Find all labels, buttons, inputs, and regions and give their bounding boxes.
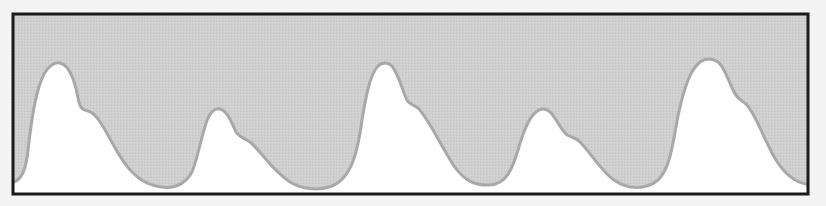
waveform-diagram <box>0 0 826 206</box>
waveform-figure <box>0 0 826 206</box>
